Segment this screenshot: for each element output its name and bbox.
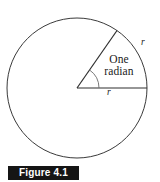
angle-label: One radian — [96, 54, 142, 77]
angle-label-line-two: radian — [96, 66, 142, 78]
radius-label-outer: r — [141, 38, 145, 48]
figure-caption-text: Figure 4.1 — [19, 168, 68, 178]
circle-diagram — [0, 0, 160, 182]
radius-label-base: r — [107, 88, 111, 98]
angle-label-line-one: One — [96, 54, 142, 66]
figure-caption-bar: Figure 4.1 — [8, 166, 79, 180]
figure-container: One radian r r Figure 4.1 — [0, 0, 160, 182]
